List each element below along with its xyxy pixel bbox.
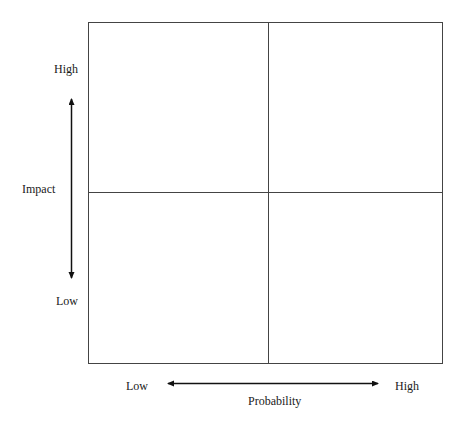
impact-high-label: High bbox=[54, 62, 78, 76]
probability-low-label: Low bbox=[126, 379, 148, 393]
matrix-grid bbox=[88, 22, 443, 364]
impact-low-label: Low bbox=[56, 294, 78, 308]
impact-axis-label: Impact bbox=[22, 182, 55, 196]
probability-axis-label: Probability bbox=[248, 394, 301, 408]
probability-high-label: High bbox=[395, 379, 419, 393]
